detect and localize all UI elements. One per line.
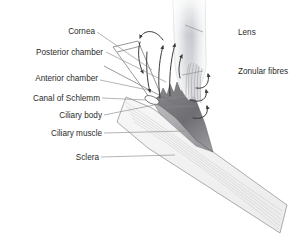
label-ciliary-muscle: Ciliary muscle (51, 129, 102, 138)
label-cornea: Cornea (68, 27, 95, 36)
label-zonular-fibres: Zonular fibres (238, 67, 288, 76)
label-group-left: Cornea Posterior chamber Anterior chambe… (33, 27, 103, 162)
label-ciliary-body: Ciliary body (59, 111, 103, 120)
label-anterior-chamber: Anterior chamber (35, 74, 98, 83)
label-canal-of-schlemm: Canal of Schlemm (33, 94, 100, 103)
label-lens: Lens (238, 28, 256, 37)
label-group-right: Lens Zonular fibres (238, 28, 288, 76)
label-sclera: Sclera (76, 153, 100, 162)
label-posterior-chamber: Posterior chamber (36, 48, 103, 57)
eye-anatomy-figure: Cornea Posterior chamber Anterior chambe… (0, 0, 307, 242)
